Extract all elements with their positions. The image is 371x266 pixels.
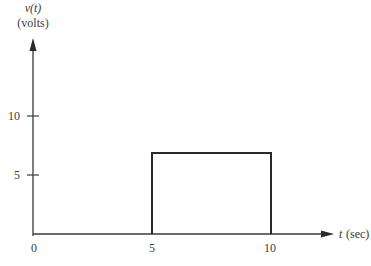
y-axis-arrow-icon (30, 38, 37, 51)
y-tick-label-5: 5 (14, 168, 20, 182)
origin-label: 0 (31, 241, 37, 255)
y-axis-unit-label: (volts) (17, 16, 48, 30)
x-axis-arrow-icon (321, 231, 334, 238)
x-axis-unit-label: (sec) (346, 227, 369, 241)
y-axis-variable-label: v(t) (25, 1, 42, 15)
x-axis-variable-label: t (339, 227, 343, 241)
x-tick-label-10: 10 (264, 241, 276, 255)
y-tick-label-10: 10 (8, 109, 20, 123)
pulse-chart: v(t) (volts) 10 5 0 5 10 t (sec) (0, 0, 371, 266)
x-tick-label-5: 5 (149, 241, 155, 255)
pulse-waveform (152, 153, 271, 234)
